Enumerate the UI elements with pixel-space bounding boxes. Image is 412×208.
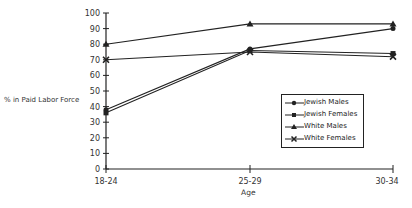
- x-axis-label: Age: [241, 188, 256, 197]
- y-tick-label: 70: [90, 56, 100, 65]
- y-tick-label: 20: [90, 134, 100, 143]
- y-tick-label: 50: [90, 87, 100, 96]
- y-tick-label: 100: [85, 9, 100, 18]
- y-tick-label: 90: [90, 25, 100, 34]
- triangle-marker-icon: [284, 121, 306, 133]
- y-tick-label: 0: [95, 165, 100, 174]
- legend-item-white-males: White Males: [282, 121, 363, 133]
- y-tick-label: 30: [90, 118, 100, 127]
- square-marker-icon: [284, 109, 306, 121]
- legend-item-white-females: White Females: [282, 133, 363, 145]
- legend-item-jewish-females: Jewish Females: [282, 109, 363, 121]
- y-tick-label: 80: [90, 40, 100, 49]
- x-tick-label: 18-24: [94, 177, 117, 186]
- y-tick-label: 10: [90, 149, 100, 158]
- x-marker-icon: [284, 133, 306, 145]
- x-tick-label: 30-34: [375, 177, 398, 186]
- legend-item-jewish-males: Jewish Males: [282, 97, 363, 109]
- y-axis-label: % in Paid Labor Force: [4, 96, 79, 104]
- y-tick-label: 40: [90, 103, 100, 112]
- legend: Jewish Males Jewish Females White Males …: [281, 94, 364, 148]
- series-line: [106, 24, 393, 44]
- x-tick-label: 25-29: [238, 177, 261, 186]
- y-tick-label: 60: [90, 71, 100, 80]
- circle-marker-icon: [284, 97, 306, 109]
